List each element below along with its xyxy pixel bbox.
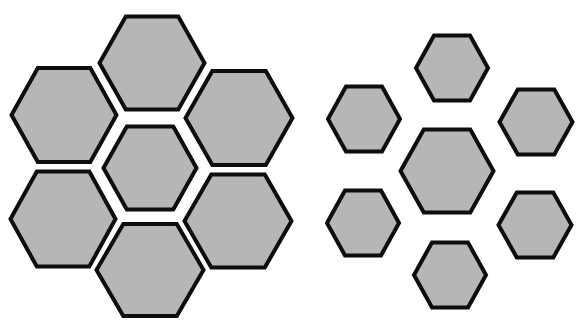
surround-hexagon bbox=[11, 172, 116, 267]
surround-hexagon bbox=[100, 17, 205, 110]
center-hexagon bbox=[401, 130, 494, 213]
surround-hexagon bbox=[186, 71, 293, 165]
surround-hexagon bbox=[500, 90, 573, 155]
surround-hexagon bbox=[327, 191, 399, 256]
large-surround-cluster bbox=[11, 17, 293, 317]
center-hexagon bbox=[104, 127, 197, 210]
surround-hexagon bbox=[185, 175, 292, 268]
surround-hexagon bbox=[416, 36, 488, 101]
surround-hexagon bbox=[499, 193, 572, 258]
surround-hexagon bbox=[12, 68, 117, 162]
ebbinghaus-hexagon-figure bbox=[0, 0, 579, 326]
surround-hexagon bbox=[328, 87, 400, 152]
surround-hexagon bbox=[414, 243, 486, 308]
surround-hexagon bbox=[97, 224, 204, 316]
small-surround-cluster bbox=[327, 36, 573, 308]
